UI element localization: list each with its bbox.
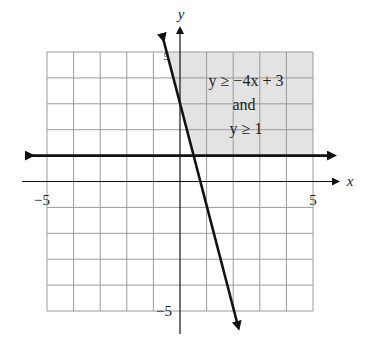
inequality-1: y ≥ −4x + 3 <box>209 72 284 90</box>
inequality-graph: y x −5 5 5 −5 y ≥ −4x + 3 and y ≥ 1 <box>0 0 370 343</box>
x-max-label: 5 <box>309 192 317 208</box>
x-min-label: −5 <box>34 192 50 208</box>
y-max-label: 5 <box>164 50 170 62</box>
y-min-label: −5 <box>156 303 172 319</box>
inequality-2: y ≥ 1 <box>230 120 263 138</box>
y-axis-label: y <box>176 6 185 22</box>
and-label: and <box>232 96 255 113</box>
x-axis-label: x <box>346 173 354 189</box>
